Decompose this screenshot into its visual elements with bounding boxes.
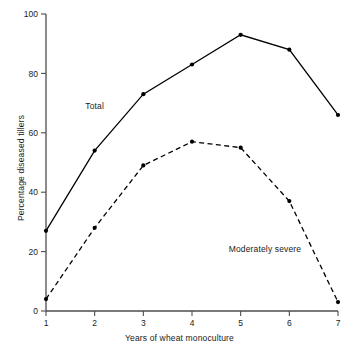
x-tick-label: 5	[238, 318, 243, 328]
x-axis-title: Years of wheat monoculture	[0, 333, 359, 343]
data-point	[44, 297, 48, 301]
y-tick-label: 40	[29, 187, 39, 197]
series-annotation-1: Total	[85, 101, 104, 111]
data-point	[287, 48, 291, 52]
data-series-group	[44, 33, 340, 305]
data-point	[190, 62, 194, 66]
y-tick-label: 100	[24, 9, 38, 19]
x-tick-label: 3	[141, 318, 146, 328]
x-tick-label: 6	[287, 318, 292, 328]
data-point	[287, 199, 291, 203]
y-axis-title: Percentage diseased tillers	[16, 68, 26, 268]
x-tick-label: 1	[44, 318, 49, 328]
chart-axes	[46, 14, 338, 311]
x-tick-label: 2	[92, 318, 97, 328]
axis-tick-labels: 0204060801001234567	[24, 9, 341, 328]
data-point	[141, 163, 145, 167]
data-point	[93, 149, 97, 153]
data-point	[239, 33, 243, 37]
data-point	[336, 300, 340, 304]
data-point	[44, 229, 48, 233]
data-point	[190, 140, 194, 144]
chart-figure: 0204060801001234567 TotalModerately seve…	[0, 0, 359, 350]
line-chart-plot: 0204060801001234567 TotalModerately seve…	[0, 0, 359, 350]
y-tick-label: 20	[29, 247, 39, 257]
data-point	[93, 226, 97, 230]
x-tick-label: 4	[190, 318, 195, 328]
x-tick-label: 7	[336, 318, 341, 328]
y-tick-label: 60	[29, 128, 39, 138]
y-tick-label: 0	[33, 306, 38, 316]
data-point	[336, 113, 340, 117]
series-line-2	[46, 142, 338, 302]
y-tick-label: 80	[29, 69, 39, 79]
data-point	[141, 92, 145, 96]
series-annotation-2: Moderately severe	[229, 244, 302, 254]
data-point	[239, 146, 243, 150]
